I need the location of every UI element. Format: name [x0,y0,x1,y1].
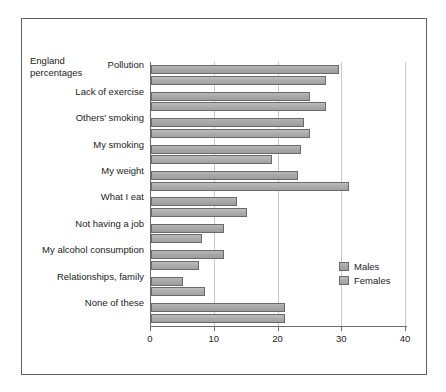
y-axis-line [150,62,151,327]
bar-males-2 [151,118,304,127]
bar-females-6 [151,234,202,243]
category-label-0: Pollution [14,60,144,70]
x-tick-label-0: 0 [147,333,152,344]
bar-males-1 [151,92,310,101]
legend-label-males: Males [354,261,379,272]
x-tick-10 [214,326,215,331]
bar-males-8 [151,277,183,286]
bar-males-9 [151,303,285,312]
x-axis-line [150,326,407,327]
x-tick-label-30: 30 [336,333,347,344]
x-tick-label-20: 20 [272,333,283,344]
x-tick-30 [341,326,342,331]
bar-males-0 [151,65,339,74]
x-tick-label-10: 10 [208,333,219,344]
x-tick-40 [405,326,406,331]
chart-legend: MalesFemales [339,259,411,287]
x-tick-20 [278,326,279,331]
bar-females-7 [151,261,199,270]
bar-females-9 [151,314,285,323]
legend-item-males[interactable]: Males [339,259,411,273]
bar-males-3 [151,145,301,154]
bar-females-2 [151,129,310,138]
category-label-8: Relationships, family [14,272,144,282]
category-label-4: My weight [14,166,144,176]
category-label-1: Lack of exercise [14,87,144,97]
bar-females-3 [151,155,272,164]
bar-males-7 [151,250,224,259]
bar-males-6 [151,224,224,233]
category-label-6: Not having a job [14,219,144,229]
bar-males-5 [151,197,237,206]
chart-figure: England percentages 010203040 PollutionL… [0,0,446,392]
x-tick-0 [150,326,151,331]
category-label-3: My smoking [14,140,144,150]
bar-females-8 [151,287,205,296]
category-label-9: None of these [14,298,144,308]
legend-item-females[interactable]: Females [339,273,411,287]
legend-swatch-icon-females [339,276,349,285]
bar-females-0 [151,76,326,85]
legend-label-females: Females [354,275,390,286]
bar-females-1 [151,102,326,111]
category-label-5: What I eat [14,192,144,202]
bar-females-4 [151,182,349,191]
bar-females-5 [151,208,247,217]
bar-males-4 [151,171,298,180]
category-label-2: Others' smoking [14,113,144,123]
legend-swatch-icon-males [339,262,349,271]
x-tick-label-40: 40 [400,333,411,344]
category-label-7: My alcohol consumption [14,245,144,255]
